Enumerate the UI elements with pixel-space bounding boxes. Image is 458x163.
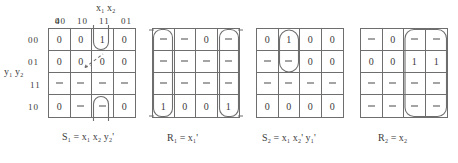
kmap-cell (92, 95, 114, 117)
kmap-cell (426, 29, 448, 51)
kmap-grid-r1: 01001 (152, 28, 240, 118)
kmap-cell (426, 73, 448, 95)
kmap-cell: 1 (279, 29, 301, 51)
col-header-2: 11 (99, 17, 110, 26)
kmap-cell (218, 51, 240, 73)
kmap-cell (153, 29, 175, 51)
caption-r2: R₂ = x₂ (378, 133, 407, 143)
kmap-cell (218, 29, 240, 51)
row-header-3: 10 (28, 103, 39, 112)
row-header-1: 01 (28, 58, 39, 67)
kmap-cell: 0 (300, 29, 322, 51)
kmap-cell (322, 73, 344, 95)
kmap-cell (361, 73, 383, 95)
caption-s1: S₁ = x₁ x₂ y₂' (62, 132, 114, 142)
kmap-cell: 0 (114, 29, 136, 51)
kmap-cell (175, 73, 197, 95)
kmap-cell (196, 73, 218, 95)
kmap-cell: 0 (383, 51, 405, 73)
kmap-grid-r2: 00011 (360, 28, 448, 118)
kmap-cell: 1 (218, 95, 240, 117)
kmap-cell: 0 (49, 29, 71, 51)
kmap-cell (361, 29, 383, 51)
kmap-cell: 0 (196, 29, 218, 51)
kmap-cell (300, 73, 322, 95)
kmap-cell: 0 (196, 95, 218, 117)
kmap-cell: 0 (300, 95, 322, 117)
kmap-cell: 0 (361, 51, 383, 73)
kmap-cell (196, 51, 218, 73)
kmap-cell: 0 (322, 95, 344, 117)
kmap-cell: 0 (71, 29, 93, 51)
kmap-figure: x₁ x₂ 4 00 10 11 01 y₁ y₂ 00 01 11 10 00… (0, 0, 458, 163)
kmap-cell: 0 (322, 51, 344, 73)
kmap-cell: 1 (404, 51, 426, 73)
kmap-cell (71, 73, 93, 95)
kmap-cell (175, 29, 197, 51)
kmap-cell: 0 (49, 51, 71, 73)
kmap-cell: 0 (257, 29, 279, 51)
kmap-cell: 0 (383, 29, 405, 51)
kmap-cell: 0 (114, 51, 136, 73)
kmap-cell: 0 (175, 95, 197, 117)
kmap-cell (361, 95, 383, 117)
kmap-cell: 1 (426, 51, 448, 73)
kmap-cell: 0 (322, 29, 344, 51)
col-header-1: 10 (77, 17, 88, 26)
kmap-cell (404, 73, 426, 95)
kmap-cell: 0 (114, 95, 136, 117)
kmap-cell (153, 51, 175, 73)
kmap-cell (383, 95, 405, 117)
kmap-cell (49, 73, 71, 95)
kmap-cell: 0 (71, 51, 93, 73)
kmap-cell (404, 95, 426, 117)
kmap-cell: 0 (92, 51, 114, 73)
kmap-cell: 0 (300, 51, 322, 73)
kmap-grid-s2: 0100000000 (256, 28, 344, 118)
kmap-cell (279, 51, 301, 73)
kmap-cell: 1 (153, 95, 175, 117)
row-header-0: 00 (28, 36, 39, 45)
col-header-3: 01 (121, 17, 132, 26)
kmap-cell (257, 51, 279, 73)
col-header-0: 00 (55, 17, 66, 26)
kmap-cell (279, 73, 301, 95)
kmap-cell (92, 73, 114, 95)
row-variable-label: y₁ y₂ (4, 67, 23, 77)
kmap-cell (404, 29, 426, 51)
kmap-cell (218, 73, 240, 95)
kmap-cell (426, 95, 448, 117)
kmap-grid-s1: 0010000000 (48, 28, 136, 118)
kmap-cell (153, 73, 175, 95)
kmap-cell (257, 73, 279, 95)
kmap-cell: 0 (279, 95, 301, 117)
kmap-cell (383, 73, 405, 95)
kmap-cell (71, 95, 93, 117)
kmap-cell: 0 (257, 95, 279, 117)
kmap-cell: 1 (92, 29, 114, 51)
row-header-2: 11 (30, 81, 41, 90)
kmap-cell: 0 (49, 95, 71, 117)
column-variable-label: x₁ x₂ (96, 3, 115, 13)
caption-r1: R₁ = x₁' (167, 133, 198, 143)
kmap-cell (114, 73, 136, 95)
kmap-cell (175, 51, 197, 73)
caption-s2: S₂ = x₁ x₂' y₁' (262, 133, 316, 143)
